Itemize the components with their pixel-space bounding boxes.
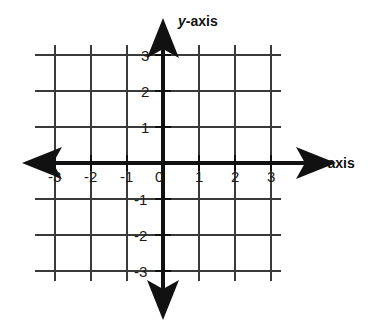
x-tick-label-neg1: -1 bbox=[120, 169, 133, 184]
x-tick-label-neg2: -2 bbox=[84, 169, 97, 184]
y-tick-label-neg1: -1 bbox=[134, 192, 147, 207]
y-tick-label-neg3: -3 bbox=[134, 264, 147, 279]
x-tick-label-pos3: 3 bbox=[267, 169, 275, 184]
x-axis-title-variable: x bbox=[315, 155, 323, 171]
y-tick-label-pos1: 1 bbox=[141, 120, 149, 135]
y-axis-title-suffix: -axis bbox=[186, 13, 218, 29]
x-axis-title-suffix: -axis bbox=[323, 155, 355, 171]
y-axis-title: y-axis bbox=[178, 14, 218, 28]
y-tick-label-pos2: 2 bbox=[141, 84, 149, 99]
x-axis-line bbox=[22, 147, 336, 179]
x-axis-title: x-axis bbox=[315, 156, 355, 170]
x-tick-label-neg3: -3 bbox=[48, 169, 61, 184]
y-tick-label-pos3: 3 bbox=[141, 48, 149, 63]
x-tick-label-pos2: 2 bbox=[231, 169, 239, 184]
x-tick-label-pos1: 1 bbox=[195, 169, 203, 184]
y-axis-title-variable: y bbox=[178, 13, 186, 29]
coordinate-plane-figure: -3 -2 -1 0 1 2 3 3 2 1 -1 -2 -3 y-axis x… bbox=[0, 0, 373, 330]
origin-label: 0 bbox=[155, 169, 163, 184]
y-tick-label-neg2: -2 bbox=[134, 228, 147, 243]
